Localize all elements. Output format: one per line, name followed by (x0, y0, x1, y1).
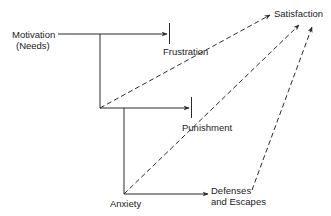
satisfaction-label: Satisfaction (274, 8, 323, 19)
anxiety-label: Anxiety (110, 198, 141, 209)
escapes-label: and Escapes (211, 196, 266, 207)
dashed-edge-branch2-satisfaction (124, 25, 299, 194)
node-satisfaction: Satisfaction (274, 8, 323, 19)
dashed-edge-branch1-satisfaction (100, 15, 270, 108)
defenses-label: Defenses (211, 185, 266, 196)
dashed-edge-defenses-satisfaction (252, 27, 312, 190)
node-punishment: Punishment (182, 122, 232, 133)
motivation-label: Motivation (12, 29, 55, 40)
node-defenses: Defenses and Escapes (211, 185, 266, 207)
node-frustration: Frustration (163, 46, 208, 57)
punishment-label: Punishment (182, 122, 232, 133)
frustration-label: Frustration (163, 46, 208, 57)
node-motivation: Motivation (Needs) (12, 29, 55, 51)
node-anxiety: Anxiety (110, 198, 141, 209)
needs-label: (Needs) (12, 40, 55, 51)
